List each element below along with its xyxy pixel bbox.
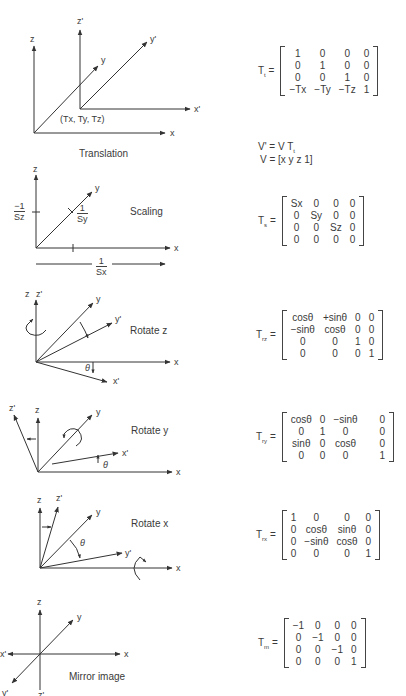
rz-theta-label: θ xyxy=(85,363,90,373)
matrix-name: Tt = xyxy=(258,65,274,78)
s-y-label: y xyxy=(95,183,100,193)
ry-y-label: y xyxy=(96,407,101,417)
translation-label: Translation xyxy=(79,148,128,159)
rotate-y-label: Rotate y xyxy=(131,425,168,436)
m-zp-label: z' xyxy=(38,690,45,696)
t-yp-label: y' xyxy=(150,34,157,44)
t-z-label: z xyxy=(30,34,35,44)
rotate-z-label: Rotate z xyxy=(130,325,167,336)
fraction-denominator: Sz xyxy=(14,211,25,222)
fraction-numerator: 1 xyxy=(77,203,88,213)
ry-x-label: x xyxy=(176,467,181,477)
rotate-y-axes xyxy=(14,415,172,472)
rx-x-label: x xyxy=(176,563,181,573)
translation-matrix: Tt = 1000 0100 0010 −Tx−Ty−Tz1 xyxy=(258,46,378,96)
t-zp-label: z' xyxy=(77,16,84,26)
rx-y-label: y xyxy=(96,507,101,517)
ry-z-label: z xyxy=(35,405,40,415)
matrix-name: Trz = xyxy=(256,329,276,342)
fraction-numerator: 1 xyxy=(96,256,107,266)
fraction-denominator: Sy xyxy=(77,213,88,224)
scaling-z-fraction: −1 Sz xyxy=(14,201,25,222)
mirror-matrix: Tm = −1000 0−100 00−10 0001 xyxy=(258,618,366,668)
rz-z-label: z xyxy=(25,289,30,299)
scaling-x-fraction: 1 Sx xyxy=(96,256,107,277)
m-xp-label: x' xyxy=(0,649,7,659)
matrix-name: Ts = xyxy=(258,215,276,228)
m-yp-label: y' xyxy=(2,688,9,696)
rx-yp-label: y' xyxy=(125,548,132,558)
t-y-label: y xyxy=(101,55,106,65)
s-z-label: z xyxy=(33,164,38,174)
rotate-x-label: Rotate x xyxy=(131,518,168,529)
m-z-label: z xyxy=(37,597,42,607)
rx-theta-label: θ xyxy=(80,538,85,548)
ry-zp-label: z' xyxy=(9,403,16,413)
s-x-label: x xyxy=(174,243,179,253)
rz-yp-label: y' xyxy=(115,314,122,324)
matrix-name: Trx = xyxy=(256,529,276,542)
rz-x-label: x xyxy=(174,357,179,367)
t-x-label: x xyxy=(170,128,175,138)
scaling-y-fraction: 1 Sy xyxy=(77,203,88,224)
scaling-axes xyxy=(32,175,170,264)
scaling-matrix: Ts = Sx000 0Sy00 00Sz0 0000 xyxy=(258,196,364,246)
rotate-x-matrix: Trx = 1000 0cosθsinθ0 0−sinθcosθ0 0001 xyxy=(256,510,380,560)
mirror-label: Mirror image xyxy=(69,671,125,682)
t-xp-label: x' xyxy=(194,104,201,114)
rotate-z-matrix: Trz = cosθ+sinθ00 −sinθcosθ00 0010 0001 xyxy=(256,310,383,360)
ry-theta-label: θ xyxy=(103,460,108,470)
vector-definition: V = [x y z 1] xyxy=(260,154,313,165)
rz-y-label: y xyxy=(96,294,101,304)
rx-zp-label: z' xyxy=(56,493,63,503)
fraction-denominator: Sx xyxy=(96,266,107,277)
m-y-label: y xyxy=(77,612,82,622)
scaling-label: Scaling xyxy=(130,206,163,217)
translation-axes xyxy=(34,30,190,133)
m-x-label: x xyxy=(124,649,129,659)
rotate-z-axes xyxy=(26,300,170,382)
rz-zp-label: z' xyxy=(36,289,43,299)
rx-z-label: z xyxy=(37,495,42,505)
matrix-name: Tm = xyxy=(258,637,278,650)
matrix-name: Try = xyxy=(256,431,276,444)
transform-equation: V' = V Tt xyxy=(258,141,295,154)
ry-xp-label: x' xyxy=(122,448,129,458)
t-offset-label: (Tx, Ty, Tz) xyxy=(60,114,105,124)
fraction-numerator: −1 xyxy=(14,201,25,211)
rotate-y-matrix: Try = cosθ0−sinθ0 0100 sinθ0cosθ0 0001 xyxy=(256,412,394,462)
rz-xp-label: x' xyxy=(113,376,120,386)
